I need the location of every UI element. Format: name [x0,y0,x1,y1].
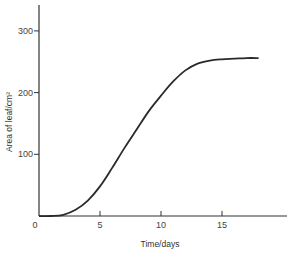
leaf-area-growth-chart: 100200300 051015 Area of leaf/cm² Time/d… [0,0,287,256]
y-axis-label: Area of leaf/cm² [4,92,14,152]
x-axis-label: Time/days [141,239,180,249]
axes [39,5,287,216]
y-tick-label: 200 [18,88,33,98]
x-tick-label: 5 [97,220,102,230]
growth-curve [39,58,259,216]
y-ticks: 100200300 [18,26,39,159]
x-tick-label: 15 [217,220,227,230]
x-tick-label: 10 [156,220,166,230]
y-tick-label: 100 [18,149,33,159]
y-tick-label: 300 [18,26,33,36]
x-tick-label: 0 [32,220,37,230]
x-ticks: 051015 [32,211,227,230]
